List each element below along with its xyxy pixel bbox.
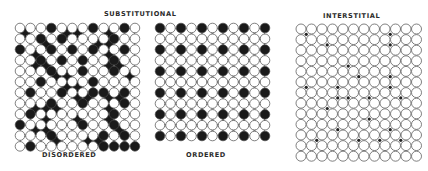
host-atom [197, 99, 207, 109]
host-atom [412, 151, 422, 161]
host-atom [47, 88, 57, 98]
interstitial-atom [389, 128, 392, 131]
host-atom [380, 24, 390, 34]
host-atom [260, 99, 270, 109]
host-atom [412, 45, 422, 55]
host-atom [328, 109, 338, 119]
host-atom [229, 77, 239, 87]
host-atom [88, 55, 98, 65]
host-atom [401, 77, 411, 87]
host-atom [401, 98, 411, 108]
host-atom [250, 56, 260, 66]
host-atom [307, 88, 317, 98]
solute-atom [260, 45, 270, 55]
host-atom [36, 99, 46, 109]
host-atom [229, 34, 239, 44]
host-atom [130, 109, 140, 119]
host-atom [349, 35, 359, 45]
host-atom [328, 98, 338, 108]
interstitial-atom [389, 43, 392, 46]
interstitial-atom [347, 65, 350, 68]
host-atom [26, 34, 36, 44]
host-atom [155, 34, 165, 44]
host-atom [99, 34, 109, 44]
solute-atom [78, 99, 88, 109]
host-atom [120, 66, 130, 76]
solute-atom [109, 120, 119, 130]
host-atom [260, 34, 270, 44]
interstitial-atom [399, 96, 402, 99]
host-atom [229, 88, 239, 98]
host-atom [155, 99, 165, 109]
host-atom [47, 77, 57, 87]
solute-atom [26, 88, 36, 98]
host-atom [67, 34, 77, 44]
solute-atom [120, 23, 130, 33]
solute-atom [120, 99, 130, 109]
host-atom [370, 24, 380, 34]
host-atom [47, 34, 57, 44]
solute-atom [109, 142, 119, 152]
host-atom [15, 88, 25, 98]
host-atom [67, 131, 77, 141]
solute-atom [197, 66, 207, 76]
host-atom [412, 35, 422, 45]
host-atom [36, 109, 46, 119]
host-atom [370, 35, 380, 45]
host-atom [120, 34, 130, 44]
host-atom [391, 56, 401, 66]
host-atom [349, 151, 359, 161]
host-atom [120, 109, 130, 119]
solute-atom [120, 142, 130, 152]
solute-atom [260, 88, 270, 98]
host-atom [15, 23, 25, 33]
host-atom [130, 131, 140, 141]
host-atom [250, 131, 260, 141]
host-atom [166, 120, 176, 130]
solute-atom [57, 34, 67, 44]
host-atom [218, 99, 228, 109]
host-atom [317, 56, 327, 66]
host-atom [307, 141, 317, 151]
host-atom [250, 99, 260, 109]
host-atom [307, 66, 317, 76]
host-atom [88, 142, 98, 152]
host-atom [208, 45, 218, 55]
host-atom [296, 88, 306, 98]
host-atom [197, 56, 207, 66]
solute-atom [15, 45, 25, 55]
host-atom [307, 35, 317, 45]
host-atom [166, 110, 176, 120]
host-atom [317, 119, 327, 129]
interstitial-atom [305, 86, 308, 89]
host-atom [250, 120, 260, 130]
host-atom [391, 88, 401, 98]
host-atom [239, 77, 249, 87]
solute-atom [218, 88, 228, 98]
host-atom [391, 35, 401, 45]
solute-atom [120, 88, 130, 98]
solute-atom [36, 55, 46, 65]
host-atom [370, 119, 380, 129]
host-atom [208, 131, 218, 141]
solute-atom [36, 77, 46, 87]
host-atom [260, 56, 270, 66]
solute-atom [155, 45, 165, 55]
host-atom [57, 120, 67, 130]
solute-atom [57, 88, 67, 98]
host-atom [187, 110, 197, 120]
host-atom [338, 98, 348, 108]
host-atom [338, 130, 348, 140]
solute-atom [197, 110, 207, 120]
host-atom [47, 120, 57, 130]
host-atom [155, 56, 165, 66]
host-atom [391, 66, 401, 76]
host-atom [412, 24, 422, 34]
host-atom [250, 23, 260, 33]
interstitial-atom [389, 75, 392, 78]
host-atom [380, 141, 390, 151]
host-atom [239, 120, 249, 130]
host-atom [109, 99, 119, 109]
interstitial-atom [305, 33, 308, 36]
solute-atom [176, 66, 186, 76]
